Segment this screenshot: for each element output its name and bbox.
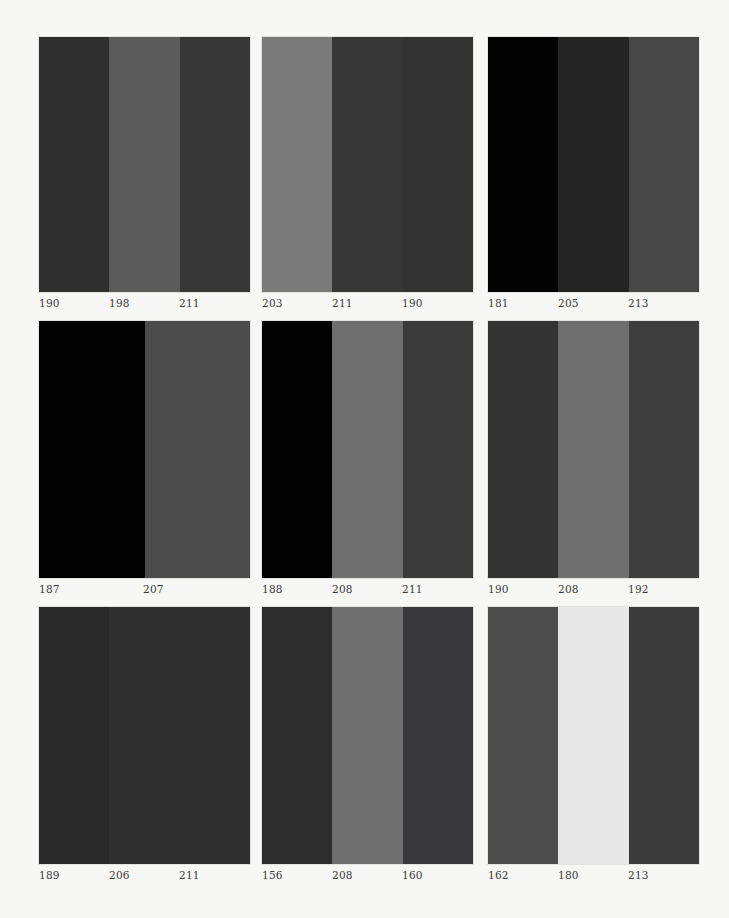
color-stripe [262, 37, 332, 292]
color-stripe [332, 321, 402, 578]
stripe-value-label: 156 [262, 869, 283, 881]
swatch-labels-6: 190 208 192 [488, 583, 699, 597]
stripe-value-label: 203 [262, 297, 283, 309]
color-stripe [558, 321, 628, 578]
color-stripe [109, 607, 179, 864]
swatch-panel-6 [488, 321, 699, 578]
stripe-value-label: 160 [402, 869, 423, 881]
color-stripe [39, 321, 145, 578]
color-stripe [629, 37, 699, 292]
swatch-labels-2: 203 211 190 [262, 297, 473, 311]
stripe-value-label: 213 [628, 297, 649, 309]
color-stripe [145, 321, 251, 578]
color-stripe [488, 607, 558, 864]
stripe-value-label: 180 [558, 869, 579, 881]
color-stripe [180, 37, 250, 292]
swatch-panel-5 [262, 321, 473, 578]
stripe-value-label: 187 [39, 583, 60, 595]
color-stripe [488, 37, 558, 292]
color-stripe [629, 607, 699, 864]
color-stripe [39, 607, 109, 864]
stripe-value-label: 190 [39, 297, 60, 309]
stripe-value-label: 208 [332, 869, 353, 881]
stripe-value-label: 211 [179, 869, 200, 881]
swatch-panel-8 [262, 607, 473, 864]
swatch-labels-3: 181 205 213 [488, 297, 699, 311]
stripe-value-label: 190 [402, 297, 423, 309]
stripe-value-label: 192 [628, 583, 649, 595]
swatch-panel-9 [488, 607, 699, 864]
color-stripe [109, 37, 179, 292]
swatch-labels-9: 162 180 213 [488, 869, 699, 883]
swatch-panel-3 [488, 37, 699, 292]
color-stripe [180, 607, 250, 864]
stripe-value-label: 208 [332, 583, 353, 595]
color-stripe [39, 37, 109, 292]
color-stripe [332, 37, 402, 292]
swatch-labels-1: 190 198 211 [39, 297, 250, 311]
swatch-labels-8: 156 208 160 [262, 869, 473, 883]
swatch-panel-2 [262, 37, 473, 292]
color-stripe [332, 607, 402, 864]
stripe-value-label: 208 [558, 583, 579, 595]
color-stripe [403, 37, 473, 292]
stripe-value-label: 207 [143, 583, 164, 595]
color-stripe [629, 321, 699, 578]
color-stripe [403, 321, 473, 578]
color-stripe [403, 607, 473, 864]
color-stripe [488, 321, 558, 578]
swatch-panel-4 [39, 321, 250, 578]
color-stripe [262, 321, 332, 578]
swatch-labels-4: 187 207 [39, 583, 250, 597]
color-stripe [558, 37, 628, 292]
stripe-value-label: 181 [488, 297, 509, 309]
stripe-value-label: 205 [558, 297, 579, 309]
stripe-value-label: 211 [332, 297, 353, 309]
swatch-labels-5: 188 208 211 [262, 583, 473, 597]
stripe-value-label: 189 [39, 869, 60, 881]
color-stripe [262, 607, 332, 864]
stripe-value-label: 190 [488, 583, 509, 595]
swatch-panel-7 [39, 607, 250, 864]
stripe-value-label: 162 [488, 869, 509, 881]
stripe-value-label: 211 [179, 297, 200, 309]
swatch-panel-1 [39, 37, 250, 292]
stripe-value-label: 188 [262, 583, 283, 595]
swatch-labels-7: 189 206 211 [39, 869, 250, 883]
stripe-value-label: 213 [628, 869, 649, 881]
stripe-value-label: 211 [402, 583, 423, 595]
stripe-value-label: 198 [109, 297, 130, 309]
color-stripe [558, 607, 628, 864]
stripe-value-label: 206 [109, 869, 130, 881]
